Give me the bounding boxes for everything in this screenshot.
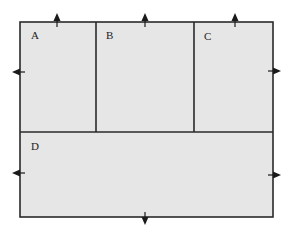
partition-diagram bbox=[0, 0, 290, 232]
region-b-label: B bbox=[106, 30, 113, 41]
region-c-label: C bbox=[204, 31, 211, 42]
region-d-label: D bbox=[31, 141, 39, 152]
region-a-label: A bbox=[31, 30, 39, 41]
region-d bbox=[20, 132, 273, 217]
